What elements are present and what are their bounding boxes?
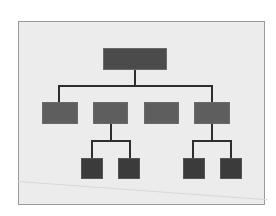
connector-to-grandchild-2a bbox=[91, 140, 93, 158]
node-grandchild-4a bbox=[183, 158, 205, 179]
connector-to-grandchild-4a bbox=[192, 140, 194, 158]
node-grandchild-2b-label bbox=[119, 159, 120, 160]
node-child-3 bbox=[144, 102, 179, 124]
connector-to-grandchild-2b bbox=[129, 140, 131, 158]
connector-to-grandchild-4b bbox=[230, 140, 232, 158]
connector-child-2-bus bbox=[91, 140, 131, 142]
node-grandchild-2a-label bbox=[82, 159, 83, 160]
node-child-2-label bbox=[94, 103, 95, 104]
node-child-4 bbox=[194, 102, 230, 124]
node-child-2 bbox=[93, 102, 128, 124]
connector-to-child-4 bbox=[211, 85, 213, 102]
connector-level1-bus bbox=[58, 85, 213, 87]
node-child-1-label bbox=[43, 103, 44, 104]
connector-child-4-bus bbox=[192, 140, 232, 142]
node-root-label bbox=[104, 49, 105, 50]
node-grandchild-4b-label bbox=[221, 159, 222, 160]
node-child-4-label bbox=[195, 103, 196, 104]
org-chart-canvas bbox=[0, 0, 276, 216]
node-child-1 bbox=[42, 102, 78, 124]
node-grandchild-4a-label bbox=[184, 159, 185, 160]
node-child-3-label bbox=[145, 103, 146, 104]
node-root bbox=[103, 48, 167, 70]
node-grandchild-2b bbox=[118, 158, 140, 179]
connector-to-child-1 bbox=[58, 85, 60, 102]
node-grandchild-4b bbox=[220, 158, 242, 179]
node-grandchild-2a bbox=[81, 158, 103, 179]
